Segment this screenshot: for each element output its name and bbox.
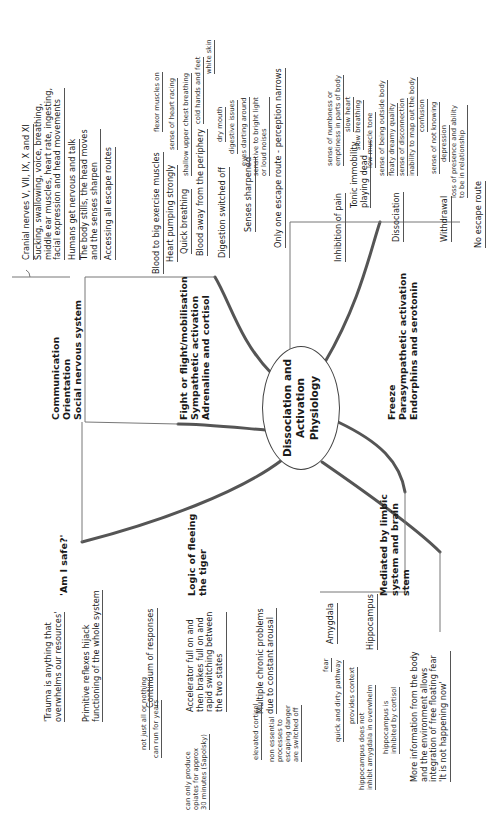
limbic-amygdala: Amygdala bbox=[326, 603, 338, 644]
branch-fight-title: Fight or flight/mobilisation Sympathetic… bbox=[178, 276, 212, 420]
branch-communication-title: Communication Orientation Social nervous… bbox=[50, 300, 84, 420]
freeze-no-escape: No escape route bbox=[474, 181, 486, 248]
branch-freeze-title: Freeze Parasympathetic activation Endorp… bbox=[386, 273, 420, 420]
freeze-outside-body: sense of being outside body bbox=[378, 80, 388, 176]
fight-white-skin: white skin bbox=[205, 40, 215, 74]
center-topic: Dissociation and Activation Physiology bbox=[262, 346, 340, 470]
branch-limbic-title: Mediated by limbic system and brain stem bbox=[378, 494, 412, 596]
logic-not-all-or-nothing: not just all or nothing bbox=[140, 677, 150, 750]
freeze-dissociation: Dissociation bbox=[392, 192, 404, 242]
freeze-low-muscle-tone: low muscle tone bbox=[366, 112, 376, 168]
communication-sucking: Sucking, swallowing, voice, breathing, m… bbox=[34, 88, 65, 260]
logic-elevated-cortisol: elevated cortisol bbox=[252, 703, 262, 760]
logic-non-essential: non essential processes to escaping dang… bbox=[268, 705, 302, 762]
fight-blood-muscles: Blood to big exercise muscles bbox=[152, 152, 164, 274]
fight-sensitive-light: sensitive to bright light or loud noises bbox=[252, 97, 270, 176]
communication-body-stills: The body stills, the head moves and the … bbox=[80, 129, 101, 260]
fight-digestion-off: Digestion switched off bbox=[218, 167, 230, 258]
freeze-withdrawal: Withdrawal bbox=[440, 196, 452, 242]
center-title-line2: Activation Physiology bbox=[294, 347, 320, 469]
freeze-map-body: inability to map out the body bbox=[408, 77, 418, 176]
mind-map-canvas: Dissociation and Activation Physiology C… bbox=[0, 0, 501, 822]
center-title-line1: Dissociation and bbox=[281, 347, 294, 469]
logic-accelerator: Accelerator full on and then brakes full… bbox=[186, 612, 227, 712]
limbic-inhibited-cortisol: hippocampus is inhibited by cortisol bbox=[382, 687, 400, 754]
limbic-quick-dirty: quick and dirty pathway bbox=[334, 660, 344, 742]
safe-primitive-reflexes: Primitive reflexes hijack functioning of… bbox=[82, 590, 103, 722]
freeze-floaty: floaty dreamy quality bbox=[388, 103, 398, 176]
fight-quick-breathing: Quick breathing bbox=[180, 189, 192, 254]
safe-trauma-quote: 'Trauma is anything that overwhelms our … bbox=[44, 612, 65, 722]
branch-logic-title: Logic of fleeing the tiger bbox=[186, 514, 208, 596]
freeze-numbness: sense of numbness or emptiness in parts … bbox=[326, 75, 344, 166]
logic-chronic-problems: Multiple chronic problems due to constan… bbox=[256, 608, 277, 714]
fight-blood-periphery: Blood away from the periphery bbox=[196, 129, 208, 256]
freeze-loss-presence: loss of presence and ability to be in re… bbox=[450, 105, 468, 198]
communication-cranial-nerves: Cranial nerves V, VII, IX, X and XI bbox=[22, 124, 34, 260]
freeze-depression: depression bbox=[440, 125, 450, 162]
limbic-provides-context: provides context bbox=[348, 667, 358, 724]
fight-heart-racing: sense of heart racing bbox=[168, 78, 178, 150]
fight-heart-pumping: Heart pumping strongly bbox=[166, 165, 178, 262]
freeze-not-knowing: sense of not knowing bbox=[430, 102, 440, 174]
logic-run-for-years: can run for years bbox=[152, 700, 162, 758]
fight-dry-mouth: dry mouth bbox=[216, 107, 226, 142]
fight-one-escape-route: Only one escape route - perception narro… bbox=[274, 68, 286, 248]
logic-opiates: can only produce opiates for approx 30 m… bbox=[184, 734, 210, 810]
communication-humans-talk: Humans get nervous and talk bbox=[68, 139, 80, 260]
freeze-slow-heart: slow heart bbox=[344, 97, 354, 132]
limbic-more-information: More information from the body and the e… bbox=[410, 651, 451, 782]
freeze-inhibition-pain: Inhibition of pain bbox=[334, 193, 346, 262]
limbic-fear: fear bbox=[322, 658, 332, 672]
branch-safe-title: 'Am I safe?' bbox=[58, 535, 69, 596]
fight-shallow-breathing: shallow upper chest breathing bbox=[182, 73, 192, 176]
limbic-does-not-inhibit: hippocampus does not inhibit amygdala in… bbox=[358, 685, 376, 790]
fight-cold-hands: cold hands and feet bbox=[194, 57, 204, 124]
limbic-hippocampus: Hippocampus bbox=[366, 594, 378, 650]
freeze-confusion: confusion bbox=[418, 99, 428, 132]
freeze-slow-breathing: slow breathing bbox=[354, 100, 364, 150]
fight-digestive-issues: digestive issues bbox=[228, 100, 238, 154]
fight-flexor-muscles: flexor muscles on bbox=[153, 72, 163, 132]
freeze-disconnection: sense of disconnection bbox=[398, 98, 408, 176]
communication-escape-routes: Accessing all escape routes bbox=[104, 147, 116, 260]
fight-eyes-darting: eyes darting around bbox=[240, 97, 250, 166]
